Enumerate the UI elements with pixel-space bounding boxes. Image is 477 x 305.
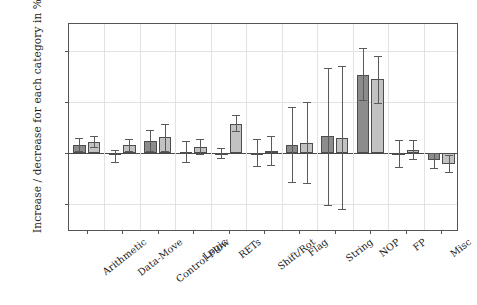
error-bar-line (413, 140, 414, 159)
error-bar-cap-upper (303, 102, 311, 103)
error-bar-cap-lower (182, 162, 190, 163)
error-bar-cap-lower (90, 147, 98, 148)
x-tick-mark (335, 230, 336, 234)
error-bar-cap-upper (196, 139, 204, 140)
y-tick-mark (65, 51, 69, 52)
error-bar-cap-lower (217, 158, 225, 159)
error-bar-cap-lower (430, 168, 438, 169)
gridline-horizontal (69, 204, 457, 205)
error-bar-cap-lower (75, 151, 83, 152)
error-bar-cap-upper (161, 124, 169, 125)
error-bar-cap-upper (267, 136, 275, 137)
error-bar-cap-lower (125, 151, 133, 152)
error-bar-cap-upper (146, 130, 154, 131)
gridline-vertical (317, 24, 318, 230)
error-bar-line (328, 68, 329, 205)
error-bar-line (200, 139, 201, 154)
gridline-vertical (211, 24, 212, 230)
error-bar-line (165, 124, 166, 152)
y-tick-mark (65, 102, 69, 103)
error-bar-cap-lower (196, 154, 204, 155)
error-bar-cap-upper (125, 139, 133, 140)
error-bar-cap-upper (374, 56, 382, 57)
error-bar-cap-upper (395, 140, 403, 141)
x-tick-mark (158, 230, 159, 234)
error-bar-line (399, 140, 400, 167)
error-bar-cap-upper (217, 148, 225, 149)
error-bar-cap-upper (430, 153, 438, 154)
gridline-vertical (175, 24, 176, 230)
error-bar-line (79, 138, 80, 150)
y-tick-mark (65, 153, 69, 154)
error-bar-cap-upper (253, 139, 261, 140)
gridline-vertical (140, 24, 141, 230)
gridline-vertical (424, 24, 425, 230)
error-bar-cap-upper (111, 150, 119, 151)
x-tick-label: NOP (377, 236, 402, 259)
error-bar-line (94, 136, 95, 147)
x-tick-mark (122, 230, 123, 234)
error-bar-line (236, 115, 237, 131)
error-bar-line (434, 153, 435, 168)
error-bar-cap-lower (253, 166, 261, 167)
error-bar-cap-upper (182, 141, 190, 142)
error-bar-cap-upper (90, 136, 98, 137)
x-tick-label: Misc (448, 236, 473, 259)
chart-figure: Increase / decrease for each category in… (0, 0, 477, 305)
x-tick-mark (441, 230, 442, 234)
error-bar-cap-lower (303, 183, 311, 184)
x-tick-mark (264, 230, 265, 234)
error-bar-cap-lower (288, 182, 296, 183)
error-bar-line (449, 155, 450, 172)
gridline-horizontal (69, 102, 457, 103)
error-bar-cap-upper (359, 48, 367, 49)
gridline-horizontal (69, 51, 457, 52)
y-tick-mark (65, 204, 69, 205)
error-bar-cap-upper (445, 155, 453, 156)
error-bar-cap-lower (324, 205, 332, 206)
error-bar-cap-lower (409, 159, 417, 160)
error-bar-cap-upper (338, 66, 346, 67)
error-bar-line (150, 130, 151, 151)
error-bar-line (292, 107, 293, 182)
error-bar-line (342, 66, 343, 209)
gridline-vertical (104, 24, 105, 230)
gridline-vertical (246, 24, 247, 230)
error-bar-line (363, 48, 364, 100)
x-tick-mark (87, 230, 88, 234)
error-bar-cap-lower (359, 100, 367, 101)
error-bar-line (378, 56, 379, 104)
gridline-vertical (388, 24, 389, 230)
error-bar-line (257, 139, 258, 166)
error-bar-cap-lower (146, 151, 154, 152)
error-bar-cap-upper (324, 68, 332, 69)
y-axis-label: Increase / decrease for each category in… (31, 0, 43, 241)
plot-area (68, 23, 458, 231)
x-tick-mark (229, 230, 230, 234)
error-bar-line (307, 102, 308, 184)
error-bar-cap-upper (409, 140, 417, 141)
error-bar-cap-lower (267, 165, 275, 166)
error-bar-line (186, 141, 187, 162)
error-bar-cap-lower (445, 172, 453, 173)
x-tick-mark (406, 230, 407, 234)
x-tick-label: RETs (236, 236, 263, 260)
error-bar-line (271, 136, 272, 165)
x-tick-label: FP (411, 236, 428, 253)
error-bar-line (115, 150, 116, 162)
error-bar-cap-lower (395, 167, 403, 168)
error-bar-cap-upper (288, 107, 296, 108)
error-bar-cap-lower (111, 162, 119, 163)
error-bar-line (129, 139, 130, 151)
error-bar-cap-lower (161, 151, 169, 152)
error-bar-cap-lower (338, 209, 346, 210)
error-bar-cap-upper (75, 138, 83, 139)
x-tick-label: String (343, 236, 374, 264)
x-tick-mark (370, 230, 371, 234)
gridline-vertical (282, 24, 283, 230)
gridline-vertical (353, 24, 354, 230)
x-tick-mark (193, 230, 194, 234)
error-bar-cap-lower (232, 131, 240, 132)
x-tick-mark (299, 230, 300, 234)
error-bar-cap-upper (232, 115, 240, 116)
